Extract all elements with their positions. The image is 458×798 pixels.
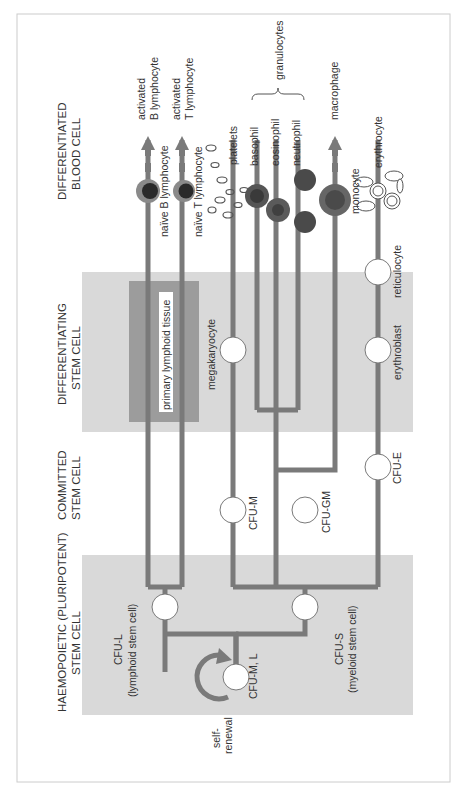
label-macrophage: macrophage [328,61,340,120]
label-cfu-m: CFU-M [247,496,259,530]
label-cfu-l: CFU-L [112,634,124,665]
header-differentiating-line1: DIFFERENTIATING [56,303,68,405]
label-activated-t-line2: T lymphocyte [183,58,195,120]
label-neutrophil: neutrophil [290,120,302,166]
header-differentiating-line2: STEM CELL [70,325,82,390]
label-cfu-gm: CFU-GM [320,491,332,533]
self-renewal-label-line2: renewal [222,717,234,754]
header-differentiated-line1: DIFFERENTIATED [56,102,68,200]
node-erythroblast [365,337,391,363]
node-cfu-l [152,594,178,620]
header-haemopoietic-line2: STEM CELL [70,610,82,675]
self-renewal-label-line1: self- [210,728,222,748]
label-reticulocyte: reticulocyte [391,245,403,298]
header-committed-line1: COMMITTED [56,450,68,520]
label-activated-t-line1: activated [170,78,182,120]
node-reticulocyte [365,259,391,285]
eosinophil-icon [266,198,290,222]
monocyte-icon [319,184,351,216]
label-cfu-s-sub: (myeloid stem cell) [346,605,358,693]
label-platelets: platelets [227,126,239,165]
label-eosinophil: eosinophil [269,119,281,166]
arrow-dash [145,163,151,172]
label-erythroblast: erythroblast [391,325,403,380]
naive-b-lymphocyte-icon [136,179,160,203]
label-cfu-s: CFU-S [333,633,345,665]
label-granulocytes: granulocytes [273,20,285,80]
label-naive-t-lymphocyte: naïve T lymphocyte [192,146,204,237]
node-cfu-m [220,497,246,523]
label-naive-b-lymphocyte: naïve B lymphocyte [158,145,170,237]
label-cfu-ml: CFU-M, L [247,653,259,699]
label-activated-b-line1: activated [135,78,147,120]
node-cfu-gm [292,497,318,523]
header-haemopoietic-line1: HAEMOPOIETIC (PLURIPOTENT) [56,532,68,712]
basophil-icon [245,184,269,208]
label-erythrocyte: erythrocyte [372,116,384,168]
label-megakaryocyte: megakaryocyte [205,319,217,390]
node-cfu-s [292,594,318,620]
node-megakaryocyte [220,337,246,363]
label-cfu-l-sub: (lymphoid stem cell) [126,604,138,697]
header-committed-line2: STEM CELL [70,455,82,520]
node-cfu-e [365,454,391,480]
label-monocyte: monocyte [349,168,361,214]
label-basophil: basophil [248,127,260,166]
haemopoiesis-diagram: HAEMOPOIETIC (PLURIPOTENT) STEM CELL COM… [0,0,458,798]
label-activated-b-line2: B lymphocyte [148,57,160,120]
label-cfu-e: CFU-E [391,452,403,484]
node-cfu-ml [223,664,249,690]
label-primary-lymphoid-tissue: primary lymphoid tissue [160,300,172,410]
header-differentiated-line2: BLOOD CELL [70,117,82,190]
